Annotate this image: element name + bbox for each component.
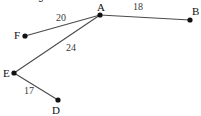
node-label-b: B xyxy=(192,6,199,17)
edge-layer xyxy=(14,15,190,100)
node-label-f: F xyxy=(14,30,20,41)
graph-node xyxy=(97,12,102,17)
node-layer xyxy=(11,12,192,102)
graph-edge xyxy=(100,15,190,20)
graph-edge xyxy=(14,73,58,100)
graph-node xyxy=(55,97,60,102)
edge-weight-label: 20 xyxy=(56,13,66,23)
edge-weight-label: 18 xyxy=(133,2,143,12)
edge-weight-label: 24 xyxy=(66,43,76,53)
graph-node xyxy=(11,70,16,75)
node-label-e: E xyxy=(3,68,10,79)
graph-node xyxy=(22,33,27,38)
node-label-a: A xyxy=(97,2,105,13)
graph-diagram: Prim's algorithm. 18202417ABDEF xyxy=(0,0,201,116)
graph-canvas xyxy=(0,0,201,116)
graph-edge xyxy=(14,15,100,73)
graph-node xyxy=(187,17,192,22)
edge-weight-label: 17 xyxy=(24,86,34,96)
node-label-d: D xyxy=(52,105,60,116)
